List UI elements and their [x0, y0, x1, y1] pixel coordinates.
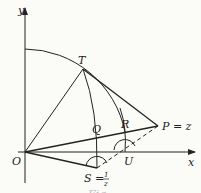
segment-OT: [25, 69, 83, 152]
point-T-label: T: [78, 54, 87, 67]
angle-mark-S: [86, 156, 107, 166]
unit-circle-arc: [25, 49, 125, 132]
point-S-numerator: 1: [104, 171, 108, 179]
point-R-label: R: [120, 118, 129, 131]
point-P-label: P = z: [161, 120, 192, 133]
point-U-label: U: [124, 155, 134, 168]
origin-label: O: [12, 155, 21, 168]
angle-mark-U: [114, 140, 135, 150]
point-S-label: S =: [84, 172, 104, 185]
arc-TS: [83, 69, 97, 168]
point-S-denominator: z: [103, 180, 108, 188]
caption: Fig.: [87, 188, 110, 193]
inversion-diagram: y x O T Q R P = z U S = 1 z Fig.: [0, 0, 201, 193]
point-Q-label: Q: [92, 123, 101, 136]
x-axis-label: x: [188, 156, 195, 169]
y-axis-label: y: [17, 4, 25, 17]
